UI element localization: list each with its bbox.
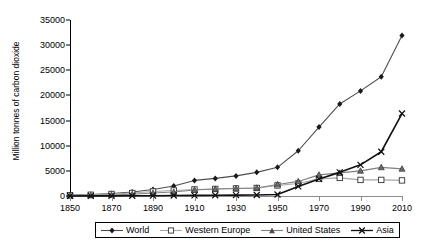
filled-diamond-marker bbox=[379, 74, 384, 80]
open-square-icon bbox=[160, 226, 182, 235]
cross-x-icon bbox=[351, 226, 373, 235]
y-axis-tick-mark bbox=[66, 70, 70, 71]
series-line bbox=[70, 114, 402, 196]
legend-label-asia: Asia bbox=[376, 225, 394, 235]
x-axis-tick-mark bbox=[236, 197, 237, 201]
open-square-marker bbox=[379, 177, 384, 182]
legend-item-world[interactable]: World bbox=[101, 225, 149, 235]
series-line bbox=[70, 36, 402, 195]
legend-item-asia[interactable]: Asia bbox=[351, 225, 394, 235]
legend-item-united-states[interactable]: United States bbox=[261, 225, 340, 235]
x-axis-tick-label: 1990 bbox=[350, 203, 370, 213]
x-axis-tick-label: 1930 bbox=[226, 203, 246, 213]
y-axis-tick-mark bbox=[66, 145, 70, 146]
x-axis-tick-mark bbox=[153, 197, 154, 201]
filled-diamond-icon bbox=[101, 226, 123, 235]
plot-area: 0500010000150002000025000300003500018501… bbox=[70, 20, 402, 196]
open-square-marker bbox=[337, 175, 342, 180]
y-axis-tick-mark bbox=[66, 45, 70, 46]
co2-emissions-line-chart: Million tonnes of carbon dioxide 0500010… bbox=[0, 0, 421, 248]
x-axis-tick-mark bbox=[278, 197, 279, 201]
y-axis-tick-mark bbox=[66, 20, 70, 21]
filled-diamond-marker bbox=[358, 88, 363, 94]
x-axis-tick-label: 1970 bbox=[309, 203, 329, 213]
open-square-marker bbox=[358, 177, 363, 182]
x-axis-tick-label: 1910 bbox=[184, 203, 204, 213]
legend-label-world: World bbox=[126, 225, 149, 235]
filled-triangle-icon bbox=[261, 226, 283, 235]
x-axis-tick-mark bbox=[195, 197, 196, 201]
filled-diamond-marker bbox=[254, 169, 259, 175]
legend-label-western-europe: Western Europe bbox=[185, 225, 250, 235]
filled-diamond-marker bbox=[213, 175, 218, 181]
x-axis-tick-mark bbox=[319, 197, 320, 201]
y-axis-title: Million tonnes of carbon dioxide bbox=[11, 11, 21, 191]
series-layer bbox=[70, 20, 402, 196]
x-axis-tick-mark bbox=[361, 197, 362, 201]
filled-diamond-marker bbox=[399, 33, 404, 39]
x-axis-tick-mark bbox=[402, 197, 403, 201]
filled-diamond-marker bbox=[233, 173, 238, 179]
cross-x-marker bbox=[378, 149, 384, 155]
filled-diamond-marker bbox=[192, 177, 197, 183]
cross-x-marker bbox=[399, 111, 405, 117]
x-axis-tick-label: 1870 bbox=[101, 203, 121, 213]
chart-legend: World Western Europe United States Asia bbox=[95, 222, 400, 238]
x-axis-tick-mark bbox=[112, 197, 113, 201]
y-axis-tick-mark bbox=[66, 120, 70, 121]
legend-item-western-europe[interactable]: Western Europe bbox=[160, 225, 250, 235]
x-axis-tick-label: 1950 bbox=[267, 203, 287, 213]
y-axis-tick-mark bbox=[66, 170, 70, 171]
series-world bbox=[67, 33, 404, 198]
open-square-marker bbox=[399, 178, 404, 183]
legend-label-united-states: United States bbox=[286, 225, 340, 235]
x-axis-tick-label: 1850 bbox=[60, 203, 80, 213]
y-axis-tick-mark bbox=[66, 95, 70, 96]
x-axis-tick-label: 1890 bbox=[143, 203, 163, 213]
x-axis-tick-label: 2010 bbox=[392, 203, 412, 213]
x-axis-tick-mark bbox=[70, 197, 71, 201]
